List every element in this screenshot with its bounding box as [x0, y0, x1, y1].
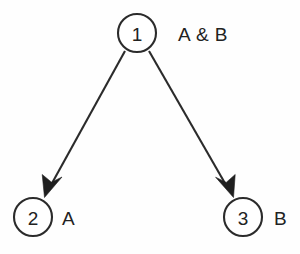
node-3-number: 3: [238, 208, 249, 229]
edges-group: [51, 51, 226, 185]
edge-node1-to-node2: [51, 51, 125, 185]
node-2-number: 2: [28, 208, 39, 229]
node-2[interactable]: 2: [14, 198, 52, 236]
graph-svg: 1 2 3 A & B A B: [0, 0, 300, 254]
diagram-canvas: 1 2 3 A & B A B: [0, 0, 300, 254]
node-labels-group: A & B A B: [62, 24, 287, 229]
node-2-label: A: [62, 208, 75, 229]
arrowhead-to-node3: [216, 175, 236, 198]
node-1-number: 1: [132, 24, 143, 45]
node-3[interactable]: 3: [224, 198, 262, 236]
arrowhead-to-node2: [42, 175, 62, 198]
node-3-label: B: [274, 208, 287, 229]
node-1-label: A & B: [178, 24, 228, 45]
arrowheads-group: [42, 175, 235, 198]
node-1[interactable]: 1: [118, 14, 156, 52]
edge-node1-to-node3: [149, 51, 226, 185]
